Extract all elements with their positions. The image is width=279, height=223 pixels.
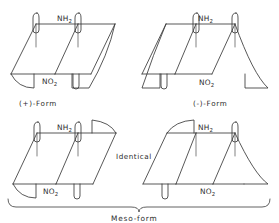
meso-brace: [8, 199, 270, 212]
form-label-minus: (-)-Form: [193, 99, 228, 108]
label-no2-bottom-left: NO2: [43, 187, 58, 197]
meso-form-label: Meso-form: [111, 214, 158, 223]
label-no2-top-left: NO2: [42, 77, 57, 87]
label-nh2-top-left: NH2: [57, 14, 72, 24]
structure-top-left: NH2 NO2: [11, 13, 115, 89]
structure-top-right: NH2 NO2: [142, 13, 268, 89]
structure-bottom-right: NH2 NO2: [143, 120, 268, 199]
form-label-plus: (+)-Form: [19, 99, 57, 108]
label-nh2-bottom-right: NH2: [198, 123, 213, 133]
identical-label: Identical: [116, 152, 152, 161]
stereochemistry-figure: NH2 NO2 (+)-Form: [0, 0, 279, 223]
label-no2-bottom-right: NO2: [200, 187, 215, 197]
label-nh2-bottom-left: NH2: [57, 123, 72, 133]
label-nh2-top-right: NH2: [198, 14, 213, 24]
figure-canvas: NH2 NO2 (+)-Form: [0, 0, 279, 223]
label-no2-top-right: NO2: [199, 78, 214, 88]
structure-bottom-left: NH2 NO2: [13, 120, 116, 199]
